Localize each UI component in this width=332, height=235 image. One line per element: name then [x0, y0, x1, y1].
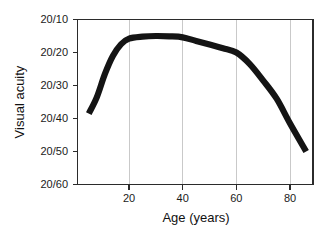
y-tick-label-1: 20/20: [40, 46, 68, 58]
x-tick-label-1: 40: [177, 192, 189, 204]
visual-acuity-chart: 20/10 20/20 20/30 20/40 20/50 20/60 20 4…: [0, 0, 332, 235]
y-tick-label-5: 20/60: [40, 178, 68, 190]
y-tick-label-0: 20/10: [40, 13, 68, 25]
y-tick-label-2: 20/30: [40, 79, 68, 91]
x-tick-label-0: 20: [123, 192, 135, 204]
x-tick-label-3: 80: [284, 192, 296, 204]
y-tick-label-4: 20/50: [40, 145, 68, 157]
x-axis-title: Age (years): [162, 210, 229, 225]
chart-canvas: 20/10 20/20 20/30 20/40 20/50 20/60 20 4…: [0, 0, 332, 235]
x-tick-label-2: 60: [230, 192, 242, 204]
y-tick-label-3: 20/40: [40, 112, 68, 124]
y-axis-title: Visual acuity: [12, 65, 27, 138]
